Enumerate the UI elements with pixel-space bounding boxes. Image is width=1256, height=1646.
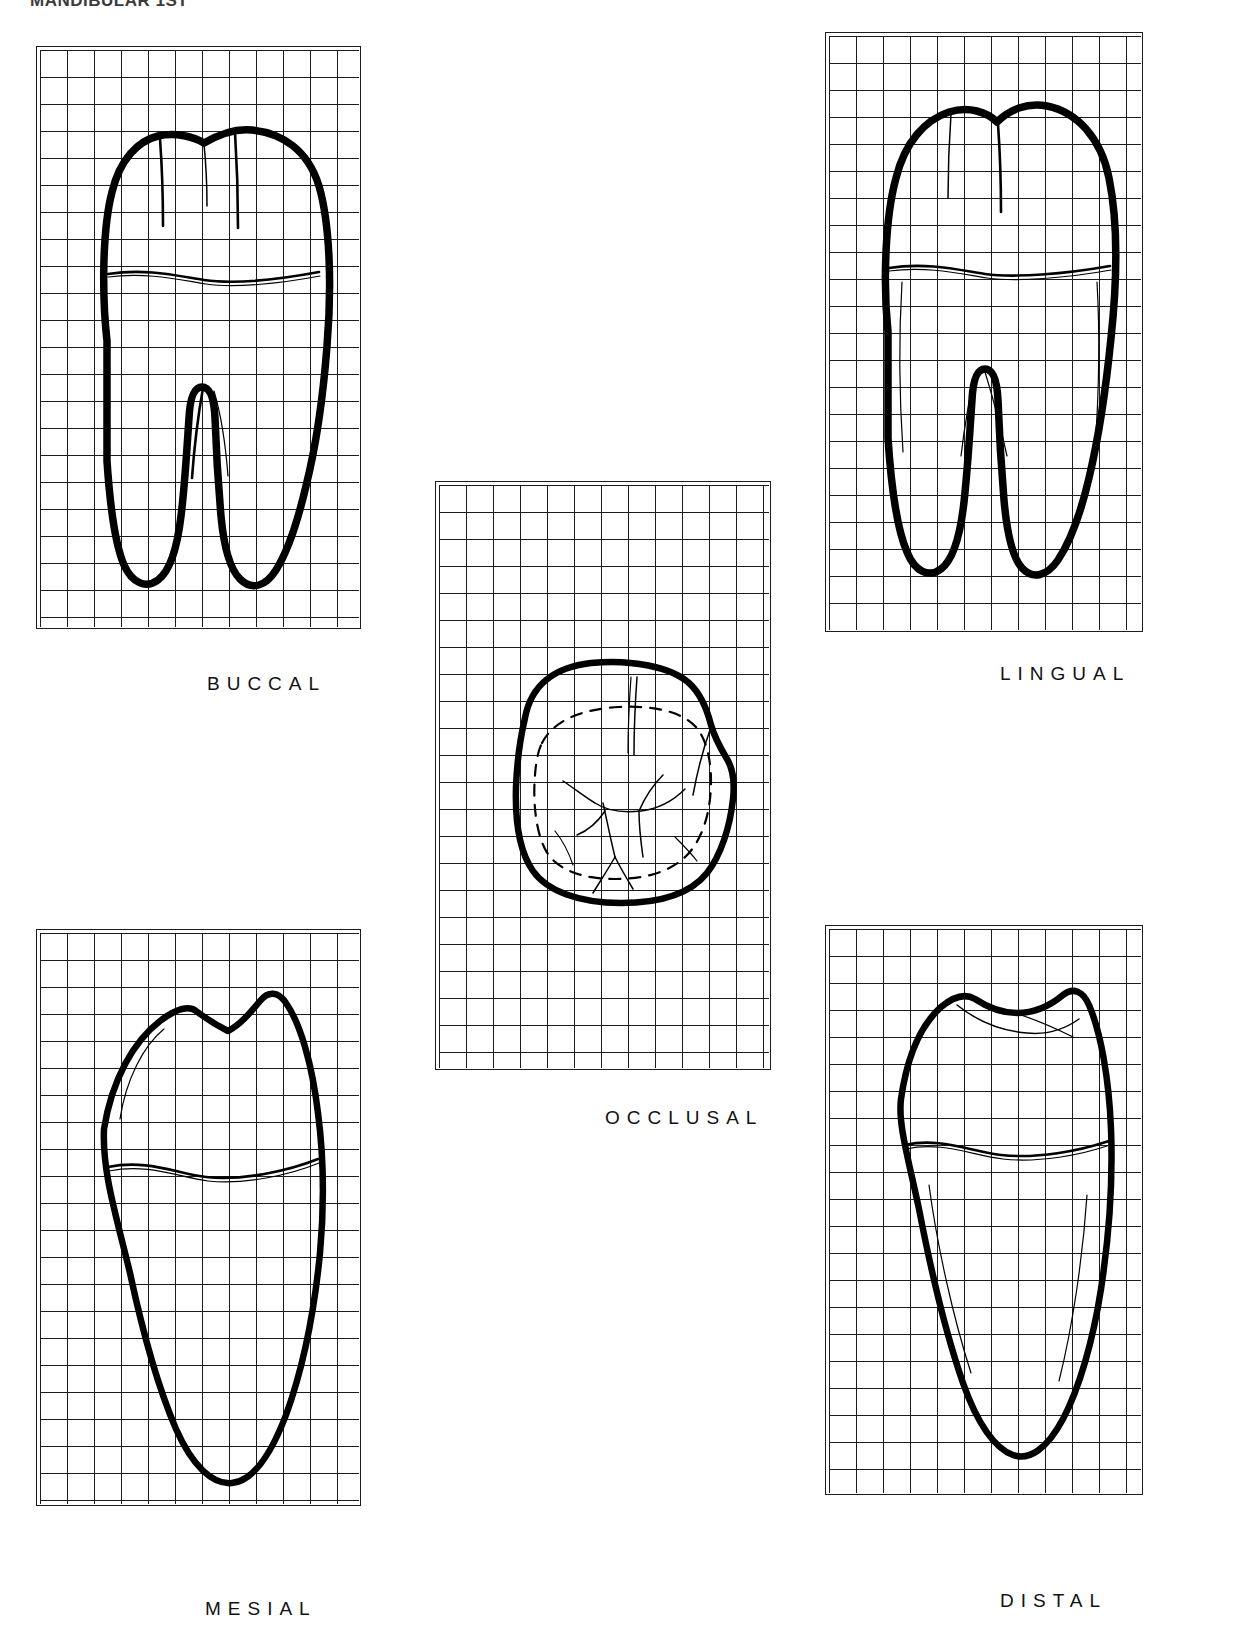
tooth-drawing-occlusal (435, 481, 771, 1070)
tooth-anatomy-plate: MANDIBULAR 1ST BUCCAL (0, 0, 1256, 1646)
panel-distal (825, 925, 1143, 1495)
view-label-occlusal: OCCLUSAL (605, 1107, 763, 1129)
panel-lingual (825, 32, 1143, 632)
view-label-buccal: BUCCAL (207, 673, 326, 695)
page-title: MANDIBULAR 1ST (30, 0, 188, 11)
tooth-drawing-distal (825, 925, 1143, 1495)
view-label-lingual: LINGUAL (1000, 663, 1130, 685)
tooth-drawing-buccal (36, 46, 361, 629)
panel-mesial (36, 929, 361, 1506)
view-label-mesial: MESIAL (205, 1598, 317, 1620)
tooth-drawing-lingual (825, 32, 1143, 632)
panel-buccal (36, 46, 361, 629)
view-label-distal: DISTAL (1000, 1590, 1107, 1612)
panel-occlusal (435, 481, 771, 1070)
tooth-drawing-mesial (36, 929, 361, 1506)
